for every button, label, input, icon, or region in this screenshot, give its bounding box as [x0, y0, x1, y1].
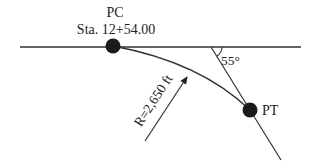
angle-label: 55° [221, 53, 240, 68]
pc-point [106, 39, 121, 54]
curve-diagram: PC Sta. 12+54.00 PT 55° R=2,650 ft [0, 0, 314, 162]
radius-label: R=2,650 ft [131, 72, 176, 130]
pt-label: PT [262, 103, 279, 118]
pc-station-label: Sta. 12+54.00 [77, 22, 155, 37]
pt-point [243, 103, 258, 118]
pc-label: PC [106, 5, 123, 20]
